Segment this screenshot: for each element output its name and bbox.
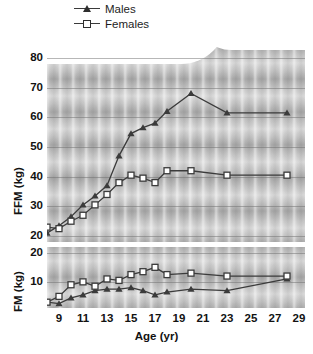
x-tick-label: 29: [289, 312, 309, 324]
y-axis-title-ffm: FFM (kg): [12, 167, 24, 215]
y-tick-label: 10: [30, 276, 43, 287]
open-square-marker-icon: [140, 269, 146, 275]
open-square-marker-icon: [164, 272, 170, 278]
y-tick-label: 30: [30, 200, 43, 211]
legend-item-males: Males: [74, 1, 194, 16]
plot-area: [47, 46, 305, 308]
filled-triangle-marker-icon: [115, 152, 122, 158]
legend-item-females: Females: [74, 16, 194, 31]
open-square-marker-icon: [152, 180, 158, 186]
open-square-marker-icon: [74, 17, 100, 31]
y-tick-label: 70: [30, 82, 43, 93]
open-square-marker-icon: [140, 175, 146, 181]
open-square-marker-icon: [116, 277, 122, 283]
open-square-marker-icon: [56, 226, 62, 232]
y-tick-label: 80: [30, 52, 43, 63]
data-series-layer: [47, 46, 305, 308]
x-tick-label: 19: [169, 312, 189, 324]
x-tick-label: 13: [97, 312, 117, 324]
x-tick-label: 21: [193, 312, 213, 324]
open-square-marker-icon: [68, 282, 74, 288]
open-square-marker-icon: [188, 168, 194, 174]
open-square-marker-icon: [224, 172, 230, 178]
x-tick-label: 25: [241, 312, 261, 324]
filled-triangle-marker-icon: [127, 130, 134, 136]
filled-triangle-marker-icon: [74, 2, 100, 16]
open-square-marker-icon: [92, 202, 98, 208]
open-square-marker-icon: [104, 191, 110, 197]
y-tick-label: 20: [30, 230, 43, 241]
open-square-marker-icon: [188, 270, 194, 276]
open-square-marker-icon: [47, 224, 50, 230]
x-tick-label: 17: [145, 312, 165, 324]
open-square-marker-icon: [128, 172, 134, 178]
x-tick-label: 11: [73, 312, 93, 324]
open-square-marker-icon: [56, 293, 62, 299]
filled-triangle-marker-icon: [127, 284, 134, 290]
legend-label-females: Females: [100, 17, 149, 31]
x-tick-label: 9: [49, 312, 69, 324]
y-tick-label: 20: [30, 247, 43, 258]
filled-triangle-marker-icon: [103, 182, 110, 188]
legend: Males Females: [74, 1, 194, 31]
open-square-marker-icon: [284, 172, 290, 178]
open-square-marker-icon: [116, 180, 122, 186]
figure-body-composition-by-age: Males Females FFM (kg) FM (kg) 203040506…: [0, 0, 313, 354]
y-axis-title-fm: FM (kg): [12, 271, 24, 312]
open-square-marker-icon: [92, 283, 98, 289]
x-tick-label: 23: [217, 312, 237, 324]
open-square-marker-icon: [68, 218, 74, 224]
open-square-marker-icon: [152, 264, 158, 270]
open-square-marker-icon: [80, 212, 86, 218]
open-square-marker-icon: [164, 168, 170, 174]
legend-label-males: Males: [100, 2, 136, 16]
series-line-females-ffm: [47, 171, 287, 229]
open-square-marker-icon: [284, 273, 290, 279]
open-square-marker-icon: [104, 276, 110, 282]
open-square-marker-icon: [80, 279, 86, 285]
x-tick-label: 27: [265, 312, 285, 324]
filled-triangle-marker-icon: [187, 90, 194, 96]
y-tick-label: 50: [30, 141, 43, 152]
open-square-marker-icon: [224, 273, 230, 279]
open-square-marker-icon: [47, 299, 50, 305]
x-tick-label: 15: [121, 312, 141, 324]
y-tick-label: 60: [30, 111, 43, 122]
x-axis-title: Age (yr): [0, 330, 313, 342]
y-tick-label: 40: [30, 171, 43, 182]
figure-caption: [8, 348, 308, 354]
open-square-marker-icon: [128, 272, 134, 278]
